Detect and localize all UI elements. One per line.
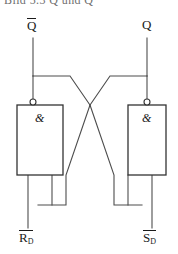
terminal-label-q: Q xyxy=(142,18,151,31)
terminal-label-qbar-text: Q xyxy=(27,18,36,33)
nand-gate-left-symbol: & xyxy=(35,111,44,126)
nand-gate-right-symbol: & xyxy=(142,111,151,126)
terminal-label-rbar-d: RD xyxy=(19,230,33,246)
terminal-label-sbar-d: SD xyxy=(143,230,156,246)
wire-left-feedback xyxy=(33,76,90,105)
terminal-label-q-text: Q xyxy=(142,17,151,32)
terminal-label-sbar-d-subscript: D xyxy=(150,237,156,246)
circuit-figure: Bild 5.3 Q und Q xyxy=(0,0,178,254)
terminal-label-rbar-d-subscript: D xyxy=(28,237,34,246)
inversion-bubble-icon-left xyxy=(30,99,36,105)
terminal-label-qbar: Q xyxy=(27,18,36,32)
inversion-bubble-icon-right xyxy=(144,99,150,105)
wire-right-feedback xyxy=(90,76,147,105)
circuit-schematic xyxy=(0,0,178,254)
terminal-label-rbar-d-text: R xyxy=(19,230,28,245)
